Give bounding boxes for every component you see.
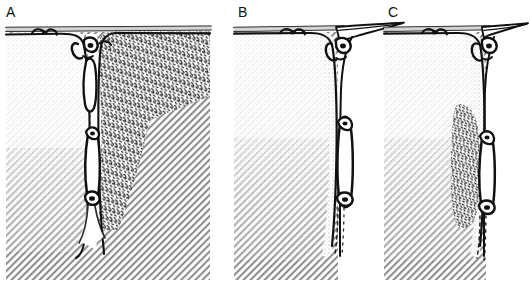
panel-b-stipple-overlay <box>232 28 407 278</box>
panel-a-label: A <box>6 5 16 19</box>
panel-c-vessel-lumen <box>479 131 495 214</box>
panel-a-drawing <box>0 0 216 293</box>
panel-b-vessel-lumen <box>337 117 353 207</box>
panel-a: A <box>0 0 216 293</box>
panel-c-label: C <box>388 5 399 19</box>
panel-b: B <box>232 0 372 293</box>
panel-b-drawing <box>232 0 407 293</box>
panel-b-label: B <box>238 5 248 19</box>
panel-c-drawing <box>382 0 530 293</box>
panel-c: C <box>382 0 527 293</box>
panel-a-vessel-lumen-lower <box>85 127 100 205</box>
panel-a-vessel-lumen-upper <box>84 59 97 112</box>
panel-a-infiltrate <box>90 30 216 252</box>
